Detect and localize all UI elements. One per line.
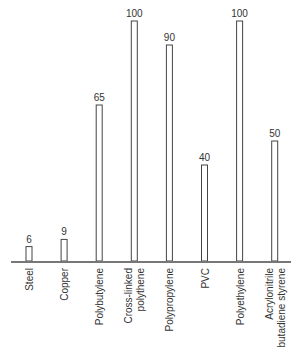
category-label-4: Polypropylene [164,268,175,332]
bars-group [26,21,278,261]
data-label-1: 9 [61,226,67,237]
bar-1 [61,239,67,261]
data-label-4: 90 [164,32,176,43]
data-label-6: 100 [231,8,248,19]
category-label-3-0: Cross-linked [123,268,134,324]
category-label-7-1: butadiene styrene [276,268,287,348]
bar-3 [131,21,137,261]
labels-group: 6Steel9Copper65Polybutylene100Cross-link… [24,8,287,348]
category-label-3-1: polythene [135,268,146,312]
category-label-6: Polyethylene [235,268,246,326]
data-label-0: 6 [26,234,32,245]
bar-chart: 6Steel9Copper65Polybutylene100Cross-link… [0,0,302,353]
bar-5 [202,165,208,261]
data-label-5: 40 [199,152,211,163]
bar-2 [96,105,102,261]
data-label-3: 100 [126,8,143,19]
bar-4 [166,45,172,261]
bar-0 [26,247,32,261]
category-label-7-0: Acrylonitrile [264,268,275,320]
bar-6 [237,21,243,261]
data-label-2: 65 [94,92,106,103]
category-label-1: Copper [59,267,70,300]
bar-7 [272,141,278,261]
data-label-7: 50 [269,128,281,139]
category-label-5: PVC [200,268,211,289]
category-label-0: Steel [24,268,35,291]
category-label-2: Polybutylene [94,268,105,326]
